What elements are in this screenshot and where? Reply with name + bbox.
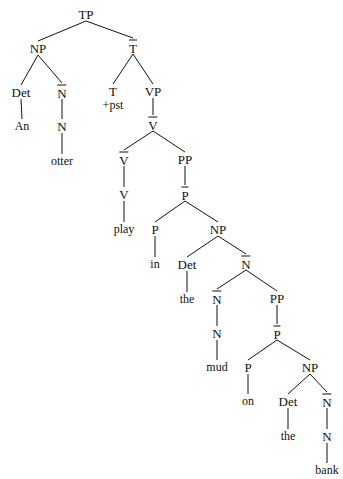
tree-node-label: otter: [51, 154, 73, 168]
tree-node-label: T: [129, 40, 137, 55]
tree-node-play: play: [114, 223, 135, 235]
tree-edge-nbar2-to-pp2: [246, 270, 277, 291]
tree-node-v: V: [119, 188, 128, 201]
tree-node-label: NP: [210, 222, 227, 237]
tree-node-np3: NP: [302, 361, 319, 374]
tree-node-vbar1: V: [148, 117, 157, 132]
tree-node-n2: N: [212, 327, 221, 340]
tree-node-in: in: [150, 258, 159, 270]
tree-node-label: P: [244, 360, 251, 375]
tree-node-det2: Det: [178, 258, 197, 271]
tree-node-label: PP: [178, 152, 192, 167]
tree-node-label: P: [273, 326, 280, 341]
tree-edge-pbar1-to-p1: [155, 201, 185, 222]
tree-edge-np2-to-det2: [187, 236, 218, 257]
tree-node-det3: Det: [279, 395, 298, 408]
tree-edge-tbar-to-vp: [133, 54, 153, 84]
tree-node-label: V: [119, 152, 128, 167]
tree-node-pbar1: P: [181, 187, 188, 202]
tree-node-np2: NP: [210, 223, 227, 236]
tree-node-the1: the: [180, 293, 195, 305]
tree-node-label: PP: [270, 291, 284, 306]
tree-node-label: the: [281, 429, 296, 443]
tree-node-label: N: [212, 291, 221, 306]
tree-node-label: N: [212, 326, 221, 341]
syntax-tree-diagram: TPNPTDetNT+pstVPAnNVotterVPPVPplayPNPinD…: [0, 0, 343, 479]
tree-node-pp2: PP: [270, 292, 284, 305]
tree-node-label: NP: [30, 41, 47, 56]
tree-edge-pbar2-to-p2: [248, 340, 277, 360]
tree-node-tp: TP: [78, 8, 93, 21]
tree-node-vp: VP: [145, 85, 162, 98]
tree-node-label: V: [119, 187, 128, 202]
tree-edge-pbar1-to-np2: [185, 201, 218, 222]
tree-edge-np3-to-det3: [288, 374, 310, 394]
tree-node-det1: Det: [12, 86, 31, 99]
tree-node-label: mud: [206, 360, 227, 374]
tree-edge-np1-to-nbar1: [38, 55, 62, 83]
tree-node-vbar2: V: [119, 152, 128, 167]
tree-node-label: An: [15, 119, 30, 133]
tree-node-p2: P: [244, 361, 251, 374]
tree-node-nbar1: N: [57, 85, 66, 100]
tree-node-label: P: [151, 222, 158, 237]
tree-node-pp1: PP: [178, 153, 192, 166]
tree-node-an: An: [15, 120, 30, 132]
tree-edge-nbar2-to-nbar3: [217, 270, 246, 289]
tree-node-label: Det: [12, 85, 31, 100]
tree-node-label: T: [109, 84, 117, 99]
tree-edge-tp-to-np1: [38, 21, 86, 41]
tree-node-t: T: [109, 85, 117, 98]
tree-node-label: on: [242, 394, 254, 408]
tree-node-label: TP: [78, 7, 93, 22]
tree-node-label: Det: [279, 394, 298, 409]
tree-edge-np2-to-nbar2: [218, 236, 246, 254]
tree-node-label: bank: [315, 463, 338, 477]
tree-node-label: VP: [145, 84, 162, 99]
tree-node-label: N: [322, 394, 331, 409]
tree-edge-pbar2-to-np3: [277, 340, 310, 360]
tree-edge-det1-to-an: [21, 99, 22, 119]
tree-node-otter: otter: [51, 155, 73, 167]
tree-node-label: NP: [302, 360, 319, 375]
tree-node-nbar2: N: [241, 256, 250, 271]
tree-edge-vbar1-to-vbar2: [124, 131, 153, 150]
tree-node-pbar2: P: [273, 326, 280, 341]
tree-node-tfeat: +pst: [103, 99, 124, 111]
tree-node-tbar: T: [129, 40, 137, 55]
tree-node-label: the: [180, 292, 195, 306]
tree-edge-tp-to-tbar: [86, 21, 133, 38]
tree-node-label: N: [57, 119, 66, 134]
tree-edge-np3-to-nbar4: [310, 374, 327, 392]
tree-node-n1: N: [57, 120, 66, 133]
tree-node-the2: the: [281, 430, 296, 442]
tree-node-label: V: [148, 117, 157, 132]
tree-node-label: in: [150, 257, 159, 271]
tree-node-label: play: [114, 222, 135, 236]
tree-node-p1: P: [151, 223, 158, 236]
tree-edge-np1-to-det1: [21, 55, 38, 85]
tree-node-n3: N: [322, 430, 331, 443]
tree-node-label: N: [241, 256, 250, 271]
tree-node-on: on: [242, 395, 254, 407]
tree-node-nbar3: N: [212, 291, 221, 306]
tree-node-bank: bank: [315, 464, 338, 476]
tree-node-mud: mud: [206, 361, 227, 373]
tree-node-nbar4: N: [322, 394, 331, 409]
tree-node-label: P: [181, 187, 188, 202]
tree-node-label: Det: [178, 257, 197, 272]
tree-edge-vbar1-to-pp1: [153, 131, 185, 152]
tree-node-label: +pst: [103, 98, 124, 112]
tree-node-np1: NP: [30, 42, 47, 55]
tree-node-label: N: [57, 85, 66, 100]
tree-node-label: N: [322, 429, 331, 444]
tree-edge-tbar-to-t: [113, 54, 133, 84]
